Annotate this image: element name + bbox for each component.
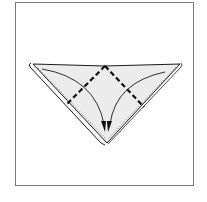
- paper-triangle: [33, 64, 180, 143]
- origami-diagram: [0, 0, 207, 202]
